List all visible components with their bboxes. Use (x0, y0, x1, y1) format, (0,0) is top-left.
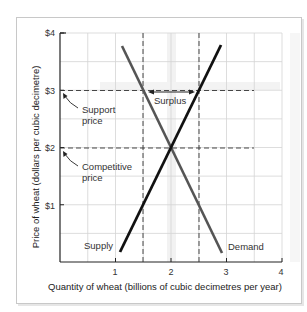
surplus-label: Surplus (154, 95, 186, 106)
competitive-price-arrow (63, 151, 78, 166)
support-price-label-1: Support (82, 104, 116, 115)
support-price-label-2: price (82, 115, 103, 126)
x-tick-2: 2 (168, 267, 173, 277)
side-panel (290, 33, 300, 262)
x-tick-1: 1 (112, 267, 117, 277)
x-tick-3: 3 (223, 267, 228, 277)
competitive-price-label-1: Competitive (82, 161, 132, 172)
supply-label: Supply (84, 240, 113, 251)
demand-label: Demand (228, 241, 264, 252)
y-tick-4: $4 (45, 28, 55, 38)
support-price-arrow (63, 93, 78, 108)
competitive-price-label-2: price (82, 172, 103, 183)
y-tick-3: $3 (45, 86, 55, 96)
highlight-band-horizontal (100, 82, 280, 90)
y-axis-title: Price of wheat (dollars per cubic decime… (30, 66, 41, 249)
x-tick-4: 4 (278, 267, 283, 277)
x-axis-title: Quantity of wheat (billions of cubic dec… (48, 281, 282, 292)
y-tick-2: $2 (45, 143, 55, 153)
chart-svg: Surplus Support price Competitive price … (0, 0, 307, 312)
y-tick-1: $1 (45, 201, 55, 211)
